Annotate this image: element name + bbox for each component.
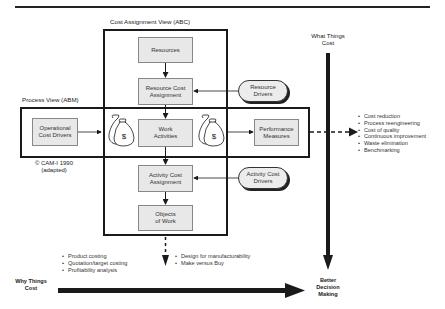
- list-item: Continuous improvement: [358, 133, 426, 140]
- design-outcomes-list: Design for manufacturability Make versus…: [175, 253, 250, 267]
- list-item: Quotation/target costing: [62, 260, 127, 267]
- money-bag-icon: $: [105, 114, 137, 148]
- list-item: Cost of quality: [358, 127, 426, 134]
- list-item: Benchmarking: [358, 147, 426, 154]
- copyright-note: © CAM-I 1990 (adapted): [30, 160, 78, 174]
- what-things-cost-line2: Cost: [303, 40, 353, 47]
- list-item: Waste elimination: [358, 140, 426, 147]
- list-item: Cost reduction: [358, 113, 426, 120]
- costing-outcomes-list: Product costing Quotation/target costing…: [62, 253, 127, 273]
- better-decision-making-label: Better Decision Making: [305, 277, 351, 298]
- list-item: Design for manufacturability: [175, 253, 250, 260]
- better-decision-making-line2: Decision: [305, 284, 351, 291]
- svg-text:$: $: [212, 132, 217, 141]
- copyright-line1: © CAM-I 1990: [30, 160, 78, 167]
- list-item: Profitability analysis: [62, 267, 127, 274]
- why-things-cost-line2: Cost: [8, 285, 54, 292]
- process-outcomes-list: Cost reduction Process reengineering Cos…: [358, 113, 426, 154]
- svg-text:$: $: [122, 132, 127, 141]
- what-things-cost-line1: What Things: [303, 33, 353, 40]
- list-item: Make versus Buy: [175, 260, 250, 267]
- why-things-cost-line1: Why Things: [8, 278, 54, 285]
- list-item: Process reengineering: [358, 120, 426, 127]
- copyright-line2: (adapted): [30, 167, 78, 174]
- better-decision-making-line3: Making: [305, 291, 351, 298]
- money-bag-icon: $: [195, 114, 227, 148]
- why-things-cost-label: Why Things Cost: [8, 278, 54, 292]
- list-item: Product costing: [62, 253, 127, 260]
- what-things-cost-label: What Things Cost: [303, 33, 353, 47]
- better-decision-making-line1: Better: [305, 277, 351, 284]
